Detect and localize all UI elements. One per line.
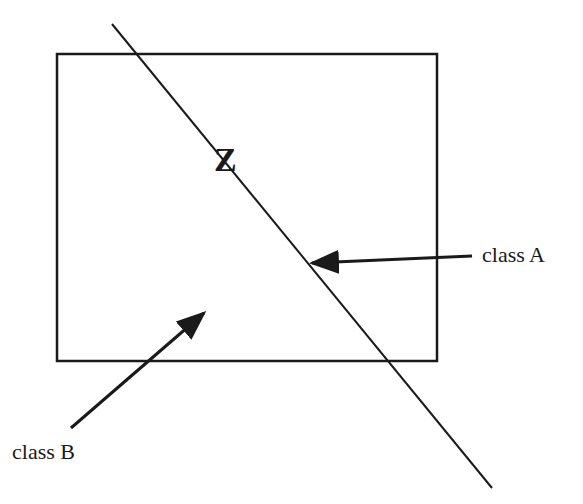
class-b-arrow <box>71 313 204 428</box>
region-rectangle <box>57 54 437 361</box>
class-a-arrow <box>312 256 472 263</box>
separating-hyperplane-line <box>112 24 492 488</box>
class-a-label: class A <box>482 244 545 266</box>
hyperplane-label: Z <box>214 143 237 177</box>
class-b-label: class B <box>12 441 75 463</box>
